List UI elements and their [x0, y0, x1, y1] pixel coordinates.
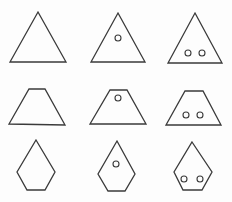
triangle-outline: [168, 13, 222, 63]
hole-circle: [183, 112, 189, 118]
hole-circle: [197, 176, 203, 182]
pentagon-one-hole: [98, 141, 135, 191]
row-triangles: [10, 12, 222, 63]
pentagon-two-holes: [174, 142, 212, 190]
triangle-two-holes: [168, 13, 222, 63]
row-trapezoids: [9, 89, 221, 125]
hole-circle: [185, 50, 191, 56]
trapezoid-two-holes: [166, 91, 221, 125]
hole-circle: [113, 161, 119, 167]
shape-matrix-diagram: [0, 0, 232, 202]
trapezoid-outline: [166, 91, 221, 125]
pentagon-no-holes: [17, 140, 55, 190]
hole-circle: [115, 35, 121, 41]
triangle-outline: [91, 13, 145, 62]
hole-circle: [181, 176, 187, 182]
trapezoid-one-hole: [90, 90, 146, 124]
triangle-one-hole: [91, 13, 145, 62]
row-pentagons: [17, 140, 212, 191]
triangle-no-holes: [10, 12, 66, 62]
pentagon-outline: [174, 142, 212, 190]
hole-circle: [199, 50, 205, 56]
trapezoid-no-holes: [9, 89, 65, 125]
shape-grid: [0, 0, 232, 202]
hole-circle: [115, 95, 121, 101]
hole-circle: [197, 112, 203, 118]
pentagon-outline: [98, 141, 135, 191]
